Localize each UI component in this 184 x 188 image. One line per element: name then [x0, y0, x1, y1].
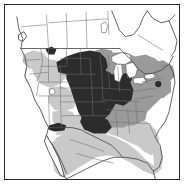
northeast-core-patch — [155, 81, 161, 87]
north-america-range-map — [5, 5, 179, 179]
map-frame — [4, 4, 180, 180]
range-map-figure: Core range Primary range Peripheral rang… — [0, 0, 184, 188]
